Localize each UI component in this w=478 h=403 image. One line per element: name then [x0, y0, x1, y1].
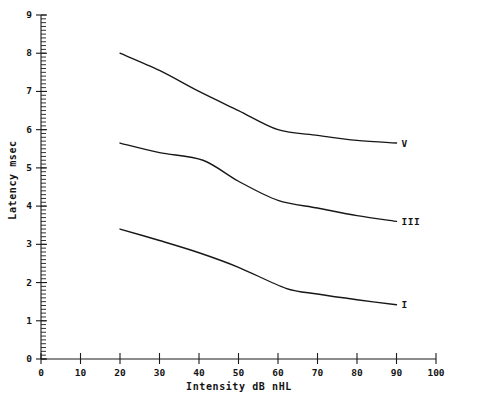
x-tick-label: 20 [114, 367, 126, 378]
y-tick-label: 0 [26, 353, 32, 364]
x-tick-label: 60 [272, 367, 284, 378]
series-label-v: V [402, 138, 408, 149]
latency-intensity-chart: 0123456789 0102030405060708090100 Intens… [0, 0, 478, 403]
x-tick-label: 90 [391, 367, 403, 378]
x-tick-label: 100 [427, 367, 444, 378]
series-label-layer: VIIII [402, 138, 421, 311]
x-tick-label: 10 [75, 367, 87, 378]
x-tick-label: 0 [38, 367, 44, 378]
chart-canvas: 0123456789 0102030405060708090100 Intens… [0, 0, 478, 403]
y-axis-title: Latency msec [7, 140, 18, 219]
x-tick-labels: 0102030405060708090100 [38, 367, 445, 378]
x-tick-label: 50 [233, 367, 245, 378]
x-axis: 0102030405060708090100 [38, 353, 445, 378]
y-minor-ticks [41, 15, 46, 359]
y-tick-label: 4 [26, 200, 32, 211]
x-tick-label: 30 [154, 367, 166, 378]
y-tick-label: 3 [26, 238, 32, 249]
series-line-iii [120, 143, 397, 221]
y-tick-label: 8 [26, 47, 32, 58]
series-label-iii: III [402, 216, 421, 227]
series-layer [120, 53, 397, 305]
series-line-v [120, 53, 397, 143]
x-tick-label: 70 [312, 367, 324, 378]
y-tick-label: 2 [26, 277, 32, 288]
series-line-i [120, 229, 397, 305]
y-tick-label: 9 [26, 9, 32, 20]
x-tick-label: 80 [351, 367, 363, 378]
y-tick-label: 6 [26, 124, 32, 135]
y-tick-label: 7 [26, 85, 32, 96]
x-axis-title: Intensity dB nHL [186, 381, 292, 392]
y-axis: 0123456789 [26, 9, 47, 364]
x-tick-label: 40 [193, 367, 205, 378]
y-tick-label: 1 [26, 315, 32, 326]
series-label-i: I [402, 299, 408, 310]
y-tick-labels: 0123456789 [26, 9, 32, 364]
y-tick-label: 5 [26, 162, 32, 173]
